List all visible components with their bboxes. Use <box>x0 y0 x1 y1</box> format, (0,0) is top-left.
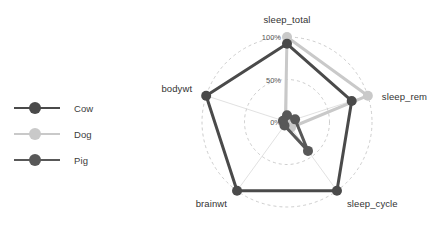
chart-legend: Cow Dog Pig <box>14 95 126 173</box>
radar-svg: 0%50%100% sleep_totalsleep_remsleep_cycl… <box>126 0 444 242</box>
point-pig-sleep_rem[interactable] <box>290 114 300 124</box>
axis-label-bodywt: bodywt <box>161 83 192 94</box>
point-cow-sleep_cycle[interactable] <box>332 186 342 196</box>
radar-plot-area: 0%50%100% sleep_totalsleep_remsleep_cycl… <box>126 0 444 242</box>
point-cow-bodywt[interactable] <box>201 91 211 101</box>
legend-label-dog: Dog <box>74 129 92 140</box>
series-layer <box>201 32 373 196</box>
axis-label-brainwt: brainwt <box>196 198 228 209</box>
legend-item-cow[interactable]: Cow <box>14 95 126 121</box>
point-pig-sleep_cycle[interactable] <box>303 146 313 156</box>
tick-label-50: 50% <box>266 76 281 85</box>
point-dog-sleep_rem[interactable] <box>363 91 373 101</box>
point-cow-sleep_total[interactable] <box>282 39 292 49</box>
tick-label-100: 100% <box>262 33 282 42</box>
legend-label-pig: Pig <box>74 155 88 166</box>
legend-item-dog[interactable]: Dog <box>14 121 126 147</box>
tick-label-0: 0% <box>270 118 281 127</box>
axis-label-sleep_total: sleep_total <box>263 14 310 25</box>
legend-key-dog <box>14 124 60 144</box>
radar-chart-page: Cow Dog Pig 0%50%100% sleep_totalsleep_r… <box>0 0 444 242</box>
series-line-dog <box>285 37 367 128</box>
series-pig[interactable] <box>278 110 313 156</box>
spoke-sleep_cycle <box>287 122 337 191</box>
tick-labels: 0%50%100% <box>262 33 282 127</box>
legend-marker-dog <box>29 128 41 140</box>
point-cow-sleep_rem[interactable] <box>347 96 357 106</box>
legend-marker-cow <box>29 102 41 114</box>
legend-key-cow <box>14 98 60 118</box>
point-cow-brainwt[interactable] <box>232 186 242 196</box>
spoke-brainwt <box>237 122 287 191</box>
axis-label-sleep_cycle: sleep_cycle <box>347 198 398 209</box>
axis-label-sleep_rem: sleep_rem <box>382 91 427 102</box>
legend-key-pig <box>14 150 60 170</box>
legend-marker-pig <box>29 154 41 166</box>
legend-label-cow: Cow <box>74 103 93 114</box>
legend-item-pig[interactable]: Pig <box>14 147 126 173</box>
